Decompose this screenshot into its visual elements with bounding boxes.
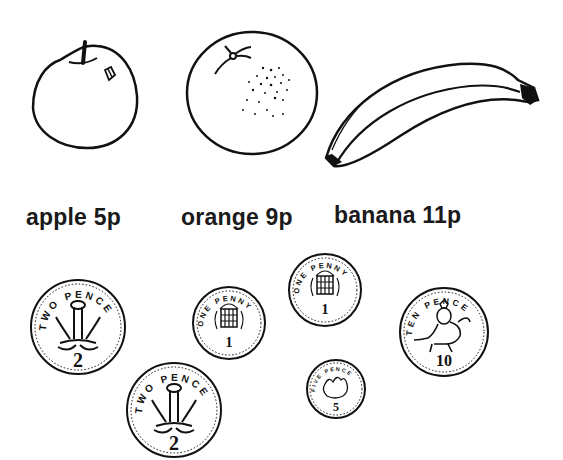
two-pence-coin-icon[interactable]: TWO PENCE 2	[124, 360, 224, 460]
apple-price-label: apple 5p	[26, 204, 121, 231]
orange-price-label: orange 9p	[181, 204, 293, 231]
coin-value: 2	[169, 432, 179, 454]
banana-price-label: banana 11p	[334, 202, 461, 229]
orange-icon	[183, 30, 323, 160]
coin-value: 1	[322, 302, 329, 317]
coin-value: 1	[226, 335, 233, 350]
coin-value: 10	[436, 352, 452, 369]
banana-icon	[320, 40, 550, 190]
five-pence-coin-icon[interactable]: FIVE PENCE 5	[305, 358, 367, 420]
ten-pence-coin-icon[interactable]: TEN PENCE 10	[398, 286, 490, 378]
coin-value: 2	[73, 349, 83, 371]
one-penny-coin-icon[interactable]: ONE PENNY 1	[191, 285, 267, 361]
apple-icon	[25, 30, 145, 150]
coin-value: 5	[333, 400, 339, 414]
one-penny-coin-icon[interactable]: ONE PENNY 1	[287, 252, 363, 328]
two-pence-coin-icon[interactable]: TWO PENCE 2	[28, 277, 128, 377]
